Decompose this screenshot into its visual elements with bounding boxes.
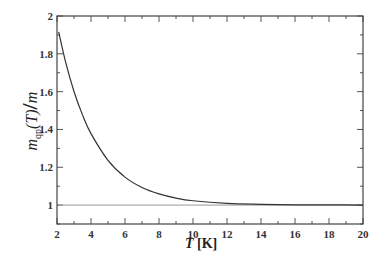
x-tick-label: 16 <box>290 228 302 240</box>
major-ticks <box>57 16 363 224</box>
x-tick-label: 8 <box>156 228 162 240</box>
minor-ticks <box>57 16 363 224</box>
data-curve <box>59 32 363 205</box>
y-axis-subscript: qp <box>32 129 43 139</box>
x-tick-label: 12 <box>222 228 234 240</box>
y-tick-label: 1 <box>48 199 54 211</box>
y-axis-label: mqp(T)/m <box>17 71 43 171</box>
x-tick-label: 4 <box>88 228 94 240</box>
plot-frame <box>57 16 363 224</box>
x-tick-label: 14 <box>256 228 268 240</box>
y-axis-denominator: m <box>23 92 40 104</box>
x-axis-label: T [K] <box>185 236 217 252</box>
x-tick-label: 20 <box>358 228 370 240</box>
y-axis-slash: / <box>17 103 42 109</box>
x-tick-label: 6 <box>122 228 128 240</box>
x-tick-label: 2 <box>54 228 60 240</box>
y-tick-label: 2 <box>48 10 54 22</box>
y-tick-label: 1.8 <box>39 48 53 60</box>
y-axis-variable: m <box>23 139 40 151</box>
x-axis-variable: T <box>185 236 194 251</box>
x-tick-label: 18 <box>324 228 336 240</box>
chart: 246810121416182011.21.41.61.82 <box>0 0 386 262</box>
x-axis-unit: [K] <box>197 236 217 251</box>
y-axis-argument: (T) <box>23 109 40 129</box>
